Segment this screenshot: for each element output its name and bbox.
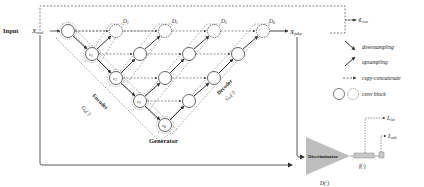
real-input-to-discriminator-path <box>40 35 292 165</box>
skip-connections <box>75 31 255 101</box>
conv-block-node <box>134 48 147 61</box>
encoder-fn-label: GE(·) <box>80 104 93 117</box>
x-real-label: Xreal <box>31 27 44 35</box>
d3-label: D3 <box>220 18 227 25</box>
adversarial-loss-path <box>381 136 386 152</box>
feature-layer-bar <box>354 153 374 158</box>
legend-upsampling: upsampling <box>362 59 388 65</box>
conv-block-node <box>183 95 196 108</box>
conv-block-node <box>257 25 270 38</box>
reconstruction-loss-path <box>40 6 360 33</box>
conv-block-node <box>110 25 123 38</box>
upsampling-arrow-icon <box>345 57 355 66</box>
conv-block-icon <box>334 89 359 100</box>
conv-blocks <box>62 25 270 132</box>
encoder-label-group: Encoder <box>91 92 110 111</box>
loss-adv-label: Ladv <box>387 133 397 140</box>
discriminator-fn-label: D(·) <box>319 180 329 187</box>
conv-block-node <box>232 48 245 61</box>
discriminator-label: Discriminator <box>308 154 339 159</box>
legend-downsampling: downsampling <box>362 44 394 50</box>
loss-con-label: Lcon <box>358 17 368 24</box>
legend-conv-block: conv block <box>362 91 386 97</box>
encoder-label: Encoder <box>91 92 110 111</box>
d2-label: D2 <box>171 18 178 25</box>
d1-label: D1 <box>122 18 129 25</box>
latent-loss-path <box>365 118 385 153</box>
input-label: Input <box>3 27 19 34</box>
conv-block-node <box>159 25 172 38</box>
x-fake-label: Xfake <box>289 28 302 36</box>
conv-block-node <box>208 25 221 38</box>
d4-label: D4 <box>268 18 275 25</box>
legend: downsampling upsampling copy-concatenate… <box>334 41 402 100</box>
fake-to-discriminator-path <box>297 37 304 157</box>
conv-block-node <box>159 72 172 85</box>
conv-block-node <box>208 72 221 85</box>
downsampling-arrow-icon <box>345 41 355 50</box>
conv-block-node <box>183 48 196 61</box>
loss-lat-label: Llat <box>386 115 395 122</box>
legend-copy-concatenate: copy-concatenate <box>362 75 401 81</box>
output-unit <box>379 152 384 158</box>
feature-fn-label: f(·) <box>359 163 366 170</box>
decoder-fn-label: GD(·) <box>223 89 236 102</box>
gan-architecture-diagram: Lcon Input Xreal <box>0 0 424 187</box>
conv-block-node <box>62 25 75 38</box>
generator-label: Generator <box>149 137 178 144</box>
